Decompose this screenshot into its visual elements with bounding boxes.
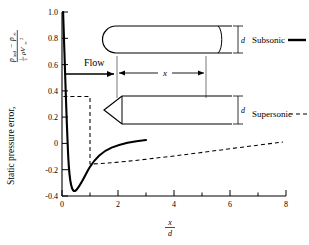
y-tick-label-0.2: 0.2 bbox=[48, 113, 58, 122]
legend-label-supersonic: Supersonic bbox=[252, 109, 292, 119]
x-axis-label-denominator: d bbox=[168, 229, 173, 238]
fraction-denominator-rhoV: ρV bbox=[19, 47, 27, 56]
x-axis-label-numerator: x bbox=[167, 218, 172, 227]
subsonic-probe-diagram: d bbox=[102, 26, 246, 53]
supersonic-probe-diagram: d bbox=[104, 96, 246, 124]
y-tick-label--0.2: -0.2 bbox=[45, 166, 58, 175]
fraction-denominator-sub-inf: ∞ bbox=[23, 41, 28, 44]
supersonic-probe-body bbox=[104, 96, 232, 124]
flow-indicator-group: Flow bbox=[66, 57, 114, 77]
y-axis-label-fraction: p ind − p ∞ 1 2 ρV ∞ 2 bbox=[7, 30, 28, 63]
x-dimension-label: x bbox=[162, 68, 167, 78]
y-axis-tick-labels: 1.0 0.8 0.6 0.4 0.2 0 -0.2 -0.4 bbox=[45, 8, 58, 201]
x-axis-tick-labels: 0 2 4 6 8 bbox=[60, 200, 288, 209]
flow-label: Flow bbox=[84, 57, 105, 68]
y-tick-label-0.8: 0.8 bbox=[48, 34, 58, 43]
x-tick-label-0: 0 bbox=[60, 200, 64, 209]
y-tick-label-1.0: 1.0 bbox=[48, 8, 58, 17]
y-tick-label-0: 0 bbox=[54, 139, 58, 148]
x-dimension-arrowhead-left bbox=[119, 71, 125, 76]
fraction-numerator-minus: − bbox=[7, 44, 16, 48]
y-tick-label-0.4: 0.4 bbox=[48, 87, 58, 96]
y-tick-label--0.4: -0.4 bbox=[45, 192, 58, 201]
fraction-denominator-sup-2: 2 bbox=[19, 38, 24, 40]
x-dimension-group: x bbox=[117, 56, 206, 98]
x-tick-label-6: 6 bbox=[228, 200, 232, 209]
fraction-numerator-p2: p bbox=[7, 37, 16, 42]
y-tick-label-0.6: 0.6 bbox=[48, 61, 58, 70]
legend: Subsonic Supersonic bbox=[252, 35, 307, 119]
legend-label-subsonic: Subsonic bbox=[252, 35, 285, 45]
static-pressure-error-figure: Static pressure error, p ind − p ∞ 1 2 ρ… bbox=[0, 0, 309, 245]
subsonic-d-label: d bbox=[241, 36, 246, 45]
x-tick-label-2: 2 bbox=[116, 200, 120, 209]
subsonic-curve bbox=[63, 12, 146, 191]
fraction-numerator-p1: p bbox=[7, 58, 16, 63]
fraction-numerator-sub-inf: ∞ bbox=[12, 32, 17, 36]
x-axis-ticks bbox=[62, 190, 286, 196]
y-axis-label-group: Static pressure error, p ind − p ∞ 1 2 ρ… bbox=[6, 30, 28, 185]
subsonic-probe-tap bbox=[218, 26, 222, 53]
subsonic-probe-body bbox=[102, 26, 232, 53]
x-tick-label-4: 4 bbox=[172, 200, 176, 209]
x-axis-label-group: x d bbox=[165, 218, 175, 238]
y-axis-label-text: Static pressure error, bbox=[6, 107, 16, 186]
subsonic-curve-unused bbox=[63, 12, 159, 190]
fraction-numerator-sub-ind: ind bbox=[12, 50, 17, 57]
supersonic-d-label: d bbox=[241, 106, 246, 115]
fraction-denominator-half-den: 2 bbox=[23, 58, 28, 60]
flow-arrow-head bbox=[107, 71, 114, 77]
supersonic-curve bbox=[63, 97, 283, 165]
x-tick-label-8: 8 bbox=[284, 200, 288, 209]
x-dimension-arrowhead-right bbox=[198, 71, 204, 76]
